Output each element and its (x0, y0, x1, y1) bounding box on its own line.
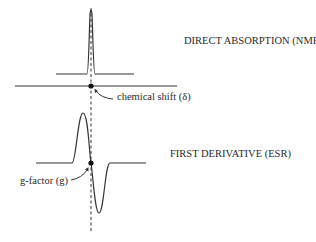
g-factor-point (88, 160, 93, 165)
esr-label: FIRST DERIVATIVE (ESR) (170, 149, 291, 160)
spectroscopy-diagram: DIRECT ABSORPTION (NMR) chemical shift (… (0, 0, 316, 242)
chemical-shift-point (88, 83, 93, 88)
g-factor-label: g-factor (g) (20, 176, 68, 187)
nmr-absorption-curve (56, 10, 134, 74)
chemical-shift-pointer (96, 91, 113, 99)
g-factor-pointer (71, 170, 87, 180)
nmr-label: DIRECT ABSORPTION (NMR) (184, 36, 316, 47)
chemical-shift-label: chemical shift (δ) (117, 92, 191, 103)
